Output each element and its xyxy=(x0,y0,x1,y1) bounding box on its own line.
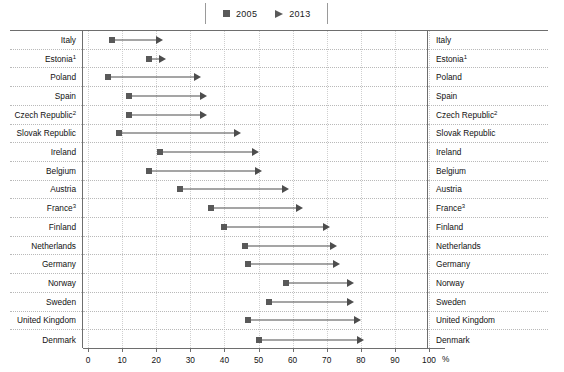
country-label-row: Estonia1 xyxy=(428,50,548,69)
country-label-row: Slovak Republic xyxy=(10,125,82,144)
square-marker-2005-icon xyxy=(256,337,262,343)
country-label-row: Ireland xyxy=(10,143,82,162)
square-marker-2005-icon xyxy=(177,186,183,192)
country-label-row: United Kingdom xyxy=(10,312,82,331)
country-label-row: Poland xyxy=(10,68,82,87)
country-label-row: Austria xyxy=(428,181,548,200)
country-label: United Kingdom xyxy=(17,315,76,325)
country-label-row: Norway xyxy=(428,274,548,293)
country-label: Czech Republic2 xyxy=(15,109,76,120)
change-arrow-shaft xyxy=(112,39,157,40)
country-label-row: Poland xyxy=(428,68,548,87)
square-marker-2005-icon xyxy=(116,130,122,136)
country-label-row: Belgium xyxy=(10,162,82,181)
data-row xyxy=(83,87,427,106)
country-label-row: Estonia1 xyxy=(10,50,82,69)
country-label: Finland xyxy=(436,222,463,232)
country-label-row: Italy xyxy=(428,31,548,50)
data-row xyxy=(83,106,427,125)
country-label-row: Ireland xyxy=(428,143,548,162)
square-marker-2005-icon xyxy=(245,261,251,267)
country-label-row: Netherlands xyxy=(428,237,548,256)
axis-tick xyxy=(361,349,362,352)
country-label: Belgium xyxy=(436,166,466,176)
data-row xyxy=(83,162,427,181)
axis-tick-label: 10 xyxy=(117,355,126,365)
data-row xyxy=(83,237,427,256)
square-marker-2005-icon xyxy=(208,205,214,211)
right-label-column: ItalyEstonia1PolandSpainCzech Republic2S… xyxy=(427,31,548,348)
footnote-marker: 3 xyxy=(73,203,76,209)
axis-tick-label: 30 xyxy=(186,355,195,365)
change-arrow-shaft xyxy=(149,170,256,171)
arrowhead-2013-icon xyxy=(347,279,354,287)
change-arrow-shaft xyxy=(286,282,348,283)
square-marker-2005-icon xyxy=(245,317,251,323)
country-label-row: Denmark xyxy=(10,330,82,349)
left-label-column: ItalyEstonia1PolandSpainCzech Republic2S… xyxy=(10,31,83,348)
country-label: Slovak Republic xyxy=(17,128,77,138)
country-label-row: Netherlands xyxy=(10,237,82,256)
country-label: Estonia1 xyxy=(436,53,467,64)
country-label-row: Italy xyxy=(10,31,82,50)
country-label: Italy xyxy=(436,35,451,45)
country-label-row: Belgium xyxy=(428,162,548,181)
data-row xyxy=(83,293,427,312)
arrowhead-2013-icon xyxy=(357,336,364,344)
axis-tick xyxy=(293,349,294,352)
arrowhead-2013-icon xyxy=(200,92,207,100)
country-label-row: Norway xyxy=(10,274,82,293)
country-label: Spain xyxy=(55,91,76,101)
country-label: Austria xyxy=(436,184,462,194)
change-arrow-shaft xyxy=(245,245,331,246)
country-label-row: Spain xyxy=(10,87,82,106)
country-label: Belgium xyxy=(46,166,76,176)
square-marker-2005-icon xyxy=(242,243,248,249)
country-label: Sweden xyxy=(46,297,76,307)
square-marker-2005-icon xyxy=(126,112,132,118)
axis-tick xyxy=(122,349,123,352)
axis-tick xyxy=(429,349,430,352)
data-row xyxy=(83,255,427,274)
axis-unit-label: % xyxy=(442,354,449,364)
axis-tick-label: 0 xyxy=(86,355,91,365)
country-label: Spain xyxy=(436,91,457,101)
country-label: Czech Republic2 xyxy=(436,109,497,120)
change-arrow-shaft xyxy=(119,133,236,134)
chart-body: ItalyEstonia1PolandSpainCzech Republic2S… xyxy=(10,30,548,348)
axis-tick-label: 20 xyxy=(152,355,161,365)
country-label-row: Czech Republic2 xyxy=(10,106,82,125)
country-label: Germany xyxy=(42,259,76,269)
arrowhead-2013-icon xyxy=(159,55,166,63)
data-row xyxy=(83,68,427,87)
axis-tick-label: 90 xyxy=(390,355,399,365)
country-label-row: Finland xyxy=(10,218,82,237)
square-marker-2005-icon xyxy=(109,37,115,43)
change-arrow-shaft xyxy=(129,114,201,115)
country-label: Norway xyxy=(436,278,464,288)
axis-tick-label: 40 xyxy=(220,355,229,365)
axis-tick xyxy=(224,349,225,352)
square-marker-icon xyxy=(223,10,230,17)
axis-tick xyxy=(259,349,260,352)
data-row xyxy=(83,218,427,237)
country-label: Norway xyxy=(48,278,76,288)
square-marker-2005-icon xyxy=(126,93,132,99)
change-arrow-shaft xyxy=(180,189,283,190)
country-label-row: Sweden xyxy=(10,293,82,312)
change-arrow-shaft xyxy=(224,226,324,227)
plot-area xyxy=(83,31,427,348)
arrowhead-2013-icon xyxy=(252,148,259,156)
change-arrow-shaft xyxy=(248,264,334,265)
footnote-marker: 3 xyxy=(462,203,465,209)
square-marker-2005-icon xyxy=(157,149,163,155)
country-label-row: Germany xyxy=(428,255,548,274)
country-label: Netherlands xyxy=(31,241,76,251)
legend-item-2013: 2013 xyxy=(275,9,310,19)
country-label-row: Germany xyxy=(10,255,82,274)
footnote-marker: 2 xyxy=(73,109,76,115)
country-label-row: France3 xyxy=(428,199,548,218)
square-marker-2005-icon xyxy=(105,74,111,80)
footnote-marker: 1 xyxy=(73,53,76,59)
axis-tick xyxy=(190,349,191,352)
